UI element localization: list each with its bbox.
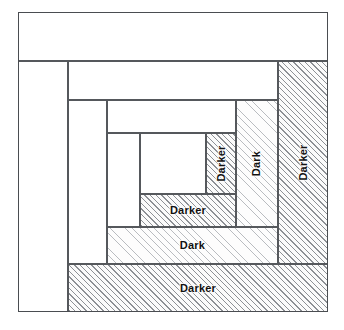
quilt-patch-left-light-1: [18, 61, 68, 312]
quilt-patch-bottom-darker-inner: Darker: [140, 194, 236, 227]
patch-label-right-darker-inner: Darker: [216, 145, 227, 181]
quilt-patch-top-light-2: [68, 61, 278, 100]
quilt-patch-right-darker-outer: Darker: [278, 61, 328, 264]
quilt-patch-top-light-1: [18, 12, 328, 61]
quilt-patch-bottom-darker-outer: Darker: [68, 264, 328, 312]
quilt-patch-top-light-3: [107, 100, 236, 133]
log-cabin-block-diagram: DarkerDarkerDarkDarkDarkerDarker: [0, 0, 344, 330]
patch-label-bottom-darker-inner: Darker: [170, 205, 206, 216]
patch-label-bottom-darker-outer: Darker: [180, 283, 216, 294]
quilt-patch-left-light-3: [107, 133, 140, 227]
quilt-patch-bottom-dark-middle: Dark: [107, 227, 278, 264]
quilt-patch-left-light-2: [68, 100, 107, 264]
patch-label-right-dark-middle: Dark: [251, 151, 262, 176]
patch-label-right-darker-outer: Darker: [298, 144, 309, 180]
quilt-patch-center-light: [140, 133, 206, 194]
patch-label-bottom-dark-middle: Dark: [180, 240, 205, 251]
quilt-patch-right-darker-inner: Darker: [206, 133, 236, 194]
quilt-patch-right-dark-middle: Dark: [236, 100, 278, 227]
